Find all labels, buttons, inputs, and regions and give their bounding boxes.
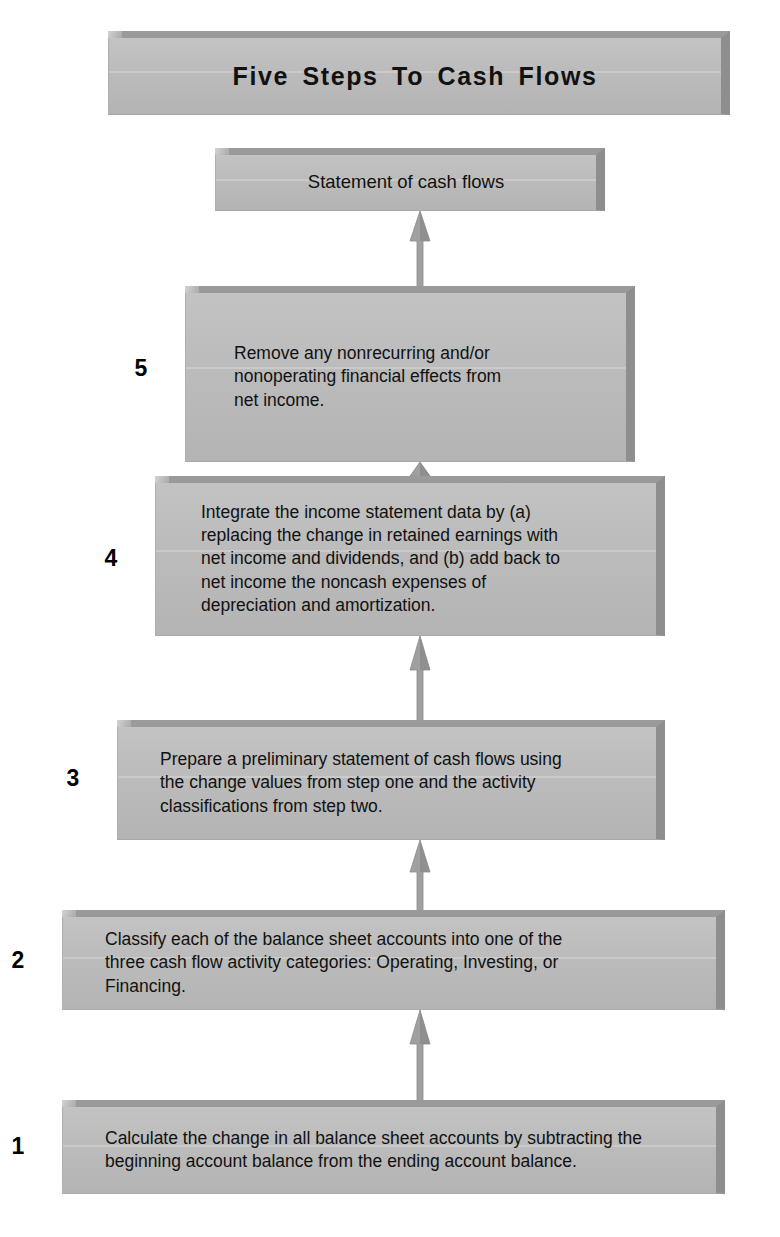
step-box-5: Remove any nonrecurring and/or nonoperat… [185, 286, 635, 462]
diagram-title-box: Five Steps To Cash Flows [108, 31, 730, 115]
arrow-step1-to-step2 [405, 1010, 435, 1102]
step-number-4: 4 [96, 545, 126, 572]
arrow-step3-to-step4 [405, 636, 435, 722]
result-box-label: Statement of cash flows [308, 170, 504, 194]
step-text-5: Remove any nonrecurring and/or nonoperat… [186, 342, 515, 411]
step-text-3: Prepare a preliminary statement of cash … [118, 748, 576, 817]
step-box-1: Calculate the change in all balance shee… [62, 1100, 725, 1194]
arrow-step5-to-result [405, 211, 435, 288]
arrow-step2-to-step3 [405, 840, 435, 912]
step-number-1: 1 [3, 1133, 33, 1160]
step-box-3: Prepare a preliminary statement of cash … [117, 720, 665, 840]
step-number-5: 5 [126, 355, 156, 382]
step-box-2: Classify each of the balance sheet accou… [62, 910, 725, 1010]
diagram-canvas: Five Steps To Cash Flows Statement of ca… [0, 0, 780, 1237]
result-box-statement-of-cash-flows: Statement of cash flows [215, 148, 605, 211]
step-text-4: Integrate the income statement data by (… [156, 501, 574, 616]
diagram-title-text: Five Steps To Cash Flows [233, 60, 598, 93]
step-number-2: 2 [3, 947, 33, 974]
step-number-3: 3 [58, 765, 88, 792]
step-text-1: Calculate the change in all balance shee… [63, 1127, 656, 1173]
step-text-2: Classify each of the balance sheet accou… [63, 928, 576, 997]
step-box-4: Integrate the income statement data by (… [155, 476, 665, 636]
